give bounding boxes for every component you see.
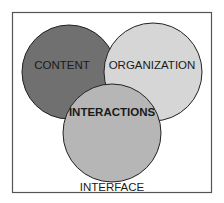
organization-label: ORGANIZATION	[109, 59, 196, 71]
interface-label: INTERFACE	[80, 181, 145, 193]
interactions-circle	[63, 84, 161, 182]
venn-diagram: CONTENT ORGANIZATION INTERACTIONS INTERF…	[0, 0, 224, 203]
content-label: CONTENT	[34, 59, 90, 71]
interactions-label: INTERACTIONS	[69, 106, 156, 118]
